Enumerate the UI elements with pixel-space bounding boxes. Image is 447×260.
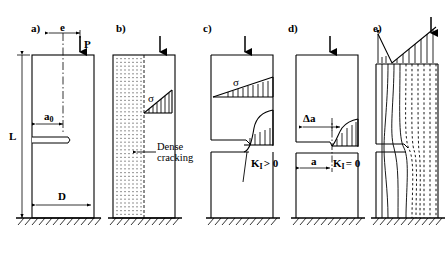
panel-b-geometry [108,36,182,225]
label-stress-sigma-c: σ [233,76,239,88]
label-sif-d-relation: = 0 [346,157,361,169]
figure-linework [0,0,447,260]
label-crack-growth-delta-a: Δa [303,112,315,124]
label-sif-d-base: K [333,157,342,169]
label-sif-zero: KI= 0 [333,157,360,171]
panel-d-geometry [291,36,365,225]
label-sif-d-subscript: I [342,162,345,171]
label-eccentricity-e: e [60,21,65,33]
panel-label-e: e) [373,22,382,34]
label-load-p: P [84,38,91,50]
label-dense-cracking: Dense cracking [157,141,193,163]
panel-e-geometry [371,17,445,225]
figure-fracture-stages: a) b) c) d) e) e P a0 L D σ Dense cracki… [0,0,447,260]
label-sif-positive: KI> 0 [251,157,278,171]
label-crack-length-a: a [311,155,317,167]
label-sif-c-relation: > 0 [264,157,279,169]
panel-label-b: b) [116,22,126,34]
dense-cracking-line1: Dense [157,141,193,152]
label-a0-subscript: 0 [50,115,54,124]
label-stress-sigma-b: σ [148,92,154,104]
label-sif-c-subscript: I [260,162,263,171]
label-sif-c-base: K [251,157,260,169]
label-width-d: D [58,190,66,202]
label-length-l: L [9,130,16,142]
panel-label-c: c) [203,22,212,34]
panel-label-d: d) [288,22,298,34]
dense-cracking-line2: cracking [157,152,193,163]
panel-c-geometry [206,36,280,225]
panel-label-a: a) [31,22,40,34]
label-notch-depth-a0: a0 [44,110,54,124]
